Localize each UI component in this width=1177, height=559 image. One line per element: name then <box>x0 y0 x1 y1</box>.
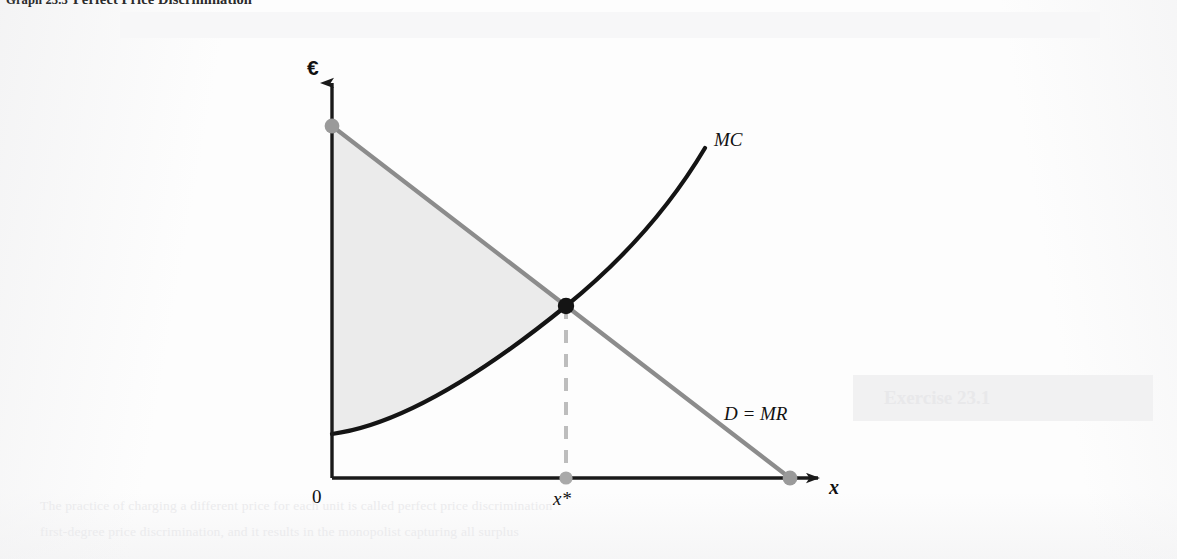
price-discrimination-diagram <box>0 0 1177 559</box>
mc-curve-label: MC <box>714 130 743 149</box>
demand-y-intercept-dot <box>325 119 340 134</box>
xstar-axis-dot <box>559 471 572 484</box>
x-axis-label: x <box>829 477 839 497</box>
scanned-page: Exercise 23.1 The practice of charging a… <box>0 0 1177 559</box>
demand-mr-label: D = MR <box>724 404 787 423</box>
origin-label: 0 <box>312 487 322 506</box>
demand-x-intercept-dot <box>783 471 798 486</box>
y-axis-label: € <box>307 57 319 78</box>
xstar-label: x* <box>553 489 571 508</box>
equilibrium-intersection-dot <box>558 298 574 314</box>
